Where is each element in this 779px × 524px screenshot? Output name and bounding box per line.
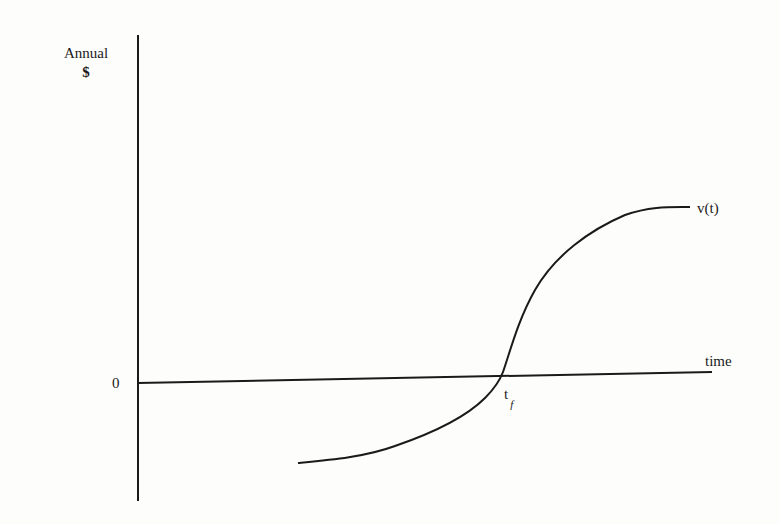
y-axis-label: Annual $ [54, 44, 118, 82]
x-axis [138, 372, 712, 383]
y-axis-label-line2: $ [54, 63, 118, 82]
y-axis-label-line1: Annual [54, 44, 118, 63]
crossing-label-subscript: f [510, 398, 513, 410]
diagram-canvas: Annual $ 0 time v(t) tf [0, 0, 779, 524]
v-t-curve [298, 207, 690, 463]
origin-label: 0 [112, 376, 120, 391]
curve-label: v(t) [697, 201, 719, 216]
x-axis-label: time [705, 354, 732, 369]
crossing-label-main: t [504, 386, 508, 402]
crossing-point-label: tf [504, 387, 511, 405]
